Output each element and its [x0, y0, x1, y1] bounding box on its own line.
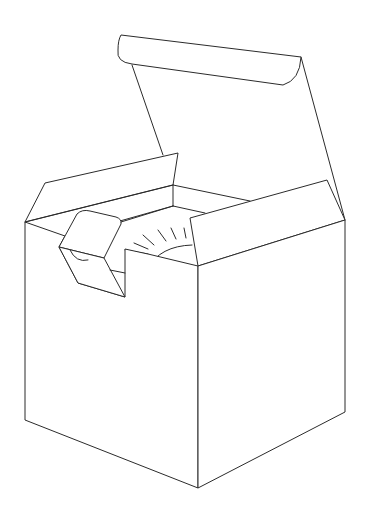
- box-illustration: Open gift box line drawing: [0, 0, 373, 517]
- box-drawing: [0, 0, 373, 517]
- right-face: [198, 220, 345, 488]
